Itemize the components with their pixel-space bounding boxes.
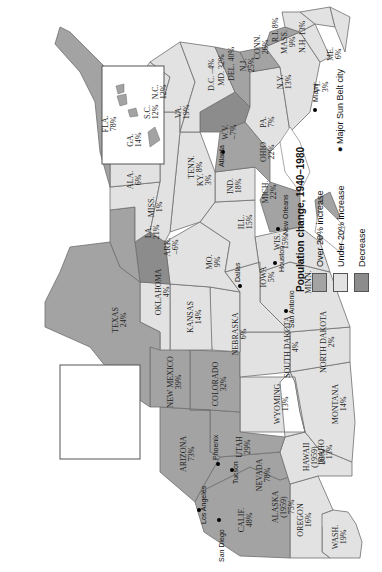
legend-item-over20: Over 20% increase bbox=[312, 147, 327, 292]
city-marker-dallas bbox=[238, 284, 242, 288]
state-label-oregon: OREGON16% bbox=[297, 503, 313, 536]
state-label-oklahoma: OKLAHOMA4% bbox=[155, 269, 171, 316]
state-label-texas: TEXAS24% bbox=[112, 307, 128, 333]
state-label-va: VA.19% bbox=[175, 105, 191, 120]
legend-swatch-over20 bbox=[312, 273, 327, 292]
city-marker-phoenix bbox=[216, 462, 220, 466]
state-label-pa: PA.7% bbox=[260, 116, 276, 128]
state-label-ny: N.Y.13% bbox=[277, 75, 293, 90]
state-label-wash: WASH.19% bbox=[332, 525, 348, 550]
state-label-wyoming: WYOMING13% bbox=[274, 384, 290, 424]
city-dot-icon: ● bbox=[335, 147, 345, 152]
legend-label-decrease: Decrease bbox=[357, 228, 367, 267]
city-label-houston: Houston bbox=[278, 246, 285, 272]
city-label-phoenix: Phoenix bbox=[212, 435, 219, 460]
legend-swatch-decrease bbox=[354, 273, 369, 292]
legend-item-under20: Under 20% increase bbox=[333, 147, 348, 292]
city-marker-houston bbox=[273, 261, 277, 265]
city-label-miami: Miami bbox=[312, 83, 319, 102]
state-label-alaska: ALASKA(1959)75% bbox=[272, 491, 296, 523]
state-label-north-dakota: NORTH DAKOTA2% bbox=[320, 311, 336, 373]
state-label-tenn: TENN.8% bbox=[188, 155, 204, 178]
legend-title: Population change, 1940–1980 bbox=[295, 147, 306, 292]
state-label-miss: MISS.1% bbox=[148, 197, 164, 218]
state-label-la: LA.21% bbox=[145, 225, 161, 240]
state-label-colorado: COLORADO32% bbox=[212, 362, 228, 406]
city-label-dallas: Dallas bbox=[234, 263, 241, 282]
state-label-md: MD. 32% bbox=[218, 54, 226, 86]
city-marker-new-orleans bbox=[276, 227, 280, 231]
state-me bbox=[330, 7, 350, 52]
state-label-nh: N.H. 13% bbox=[299, 21, 307, 53]
state-label-ill: ILL.15% bbox=[238, 215, 254, 230]
city-marker-miami bbox=[313, 108, 317, 112]
state-label-conn: CONN.26% bbox=[254, 35, 270, 60]
legend-city-label: Major Sun Belt city bbox=[335, 69, 345, 144]
map-stage: WASH.19% OREGON16% CALIF.48% NEVADA78% I… bbox=[0, 0, 382, 572]
state-label-iowa: IOWA5% bbox=[260, 267, 276, 288]
state-label-mo: MO.9% bbox=[206, 255, 222, 270]
alaska-inset-frame bbox=[60, 365, 140, 459]
state-label-calif: CALIF.48% bbox=[238, 508, 254, 532]
state-label-wv: W.V.–7% bbox=[222, 124, 238, 140]
legend-item-decrease: Decrease bbox=[354, 147, 369, 292]
city-label-san-diego: San Diego bbox=[218, 529, 225, 562]
state-label-ind: IND.18% bbox=[227, 178, 243, 194]
city-label-new-orleans: New Orleans bbox=[282, 195, 289, 235]
map-legend: Population change, 1940–1980 Over 20% in… bbox=[295, 147, 369, 292]
state-label-del: DEL. 40% bbox=[228, 47, 236, 81]
state-label-nevada: NEVADA78% bbox=[256, 459, 272, 492]
state-label-kansas: KANSAS14% bbox=[187, 301, 203, 333]
state-label-fla: FLA.78% bbox=[102, 115, 118, 132]
legend-label-under20: Under 20% increase bbox=[336, 185, 346, 267]
state-label-ri: R.I. 8% bbox=[272, 18, 280, 43]
state-label-montana: MONTANA14% bbox=[332, 384, 348, 424]
legend-label-over20: Over 20% increase bbox=[315, 190, 325, 267]
state-label-ark: ARK.–6% bbox=[164, 238, 180, 257]
state-label-nebraska: NEBRASKA6% bbox=[232, 312, 248, 355]
state-label-sc: S.C.12% bbox=[144, 105, 160, 120]
state-label-dc: D.C. –4% bbox=[208, 59, 216, 91]
city-label-los-angeles: Los Angeles bbox=[200, 486, 207, 524]
state-label-mass: MASS.9% bbox=[281, 30, 297, 54]
state-label-nc: N.C.12% bbox=[152, 84, 168, 99]
state-label-nj: N.J.25% bbox=[240, 58, 256, 73]
legend-city-marker: ● Major Sun Belt city bbox=[335, 69, 345, 152]
city-label-atlanta: Atlanta bbox=[218, 145, 225, 167]
city-label-san-antonio: San Antonio bbox=[288, 290, 295, 328]
city-label-tucson: Tucson bbox=[232, 461, 239, 484]
state-label-new-mexico: NEW MEXICO39% bbox=[167, 356, 183, 408]
state-label-utah: UTAH29% bbox=[236, 436, 252, 458]
state-label-arizona: ARIZONA73% bbox=[180, 436, 196, 472]
state-label-ala: ALA.6% bbox=[127, 171, 143, 189]
city-marker-san-diego bbox=[217, 518, 221, 522]
state-label-hawaii: HAWAII(1959)26% bbox=[303, 443, 327, 472]
state-label-me: ME.6% bbox=[327, 47, 343, 61]
state-label-mich: MICH.22% bbox=[262, 181, 278, 204]
legend-swatch-under20 bbox=[333, 273, 348, 292]
state-label-ga: GA.14% bbox=[127, 133, 143, 148]
state-label-ohio: OHIO22% bbox=[260, 142, 276, 162]
